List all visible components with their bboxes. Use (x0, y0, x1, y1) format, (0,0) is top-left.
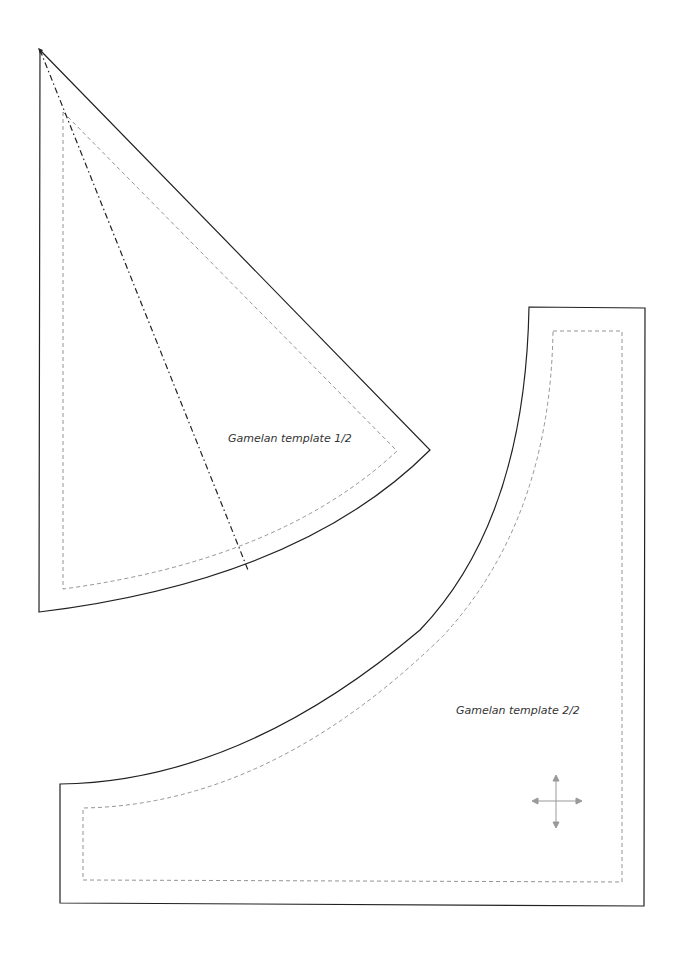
piece-1-label: Gamelan template 1/2 (228, 432, 352, 445)
pattern-sheet (0, 0, 684, 966)
template-piece-2 (60, 307, 645, 906)
template-piece-1 (38, 48, 430, 612)
piece-1-cut-line (39, 50, 430, 612)
grainline-cross-icon (532, 775, 582, 828)
piece-2-cut-line (60, 307, 645, 906)
piece-1-seam-line (63, 112, 397, 589)
piece-1-fold-line (40, 50, 248, 570)
piece-2-label: Gamelan template 2/2 (456, 704, 580, 717)
piece-2-seam-line (83, 331, 622, 882)
